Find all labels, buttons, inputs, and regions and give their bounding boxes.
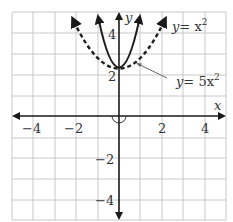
x-axis-label: x — [214, 98, 222, 113]
x-tick-label: −4 — [22, 121, 41, 136]
y-tick-label: −2 — [95, 152, 114, 167]
y-tick-label: 4 — [108, 27, 116, 42]
label-pointer — [138, 64, 167, 78]
graph: −4 −2 2 4 4 2 −2 −4 x y y= x2 y= 5x2 — [0, 0, 233, 222]
y-tick-label: −4 — [95, 193, 114, 208]
x-tick-label: 4 — [201, 121, 209, 136]
y-tick-label: 2 — [108, 69, 116, 84]
x-tick-label: −2 — [64, 121, 83, 136]
y-axis-label: y — [124, 10, 133, 25]
label-y-equals-x-squared: y= x2 — [171, 17, 207, 34]
pointer-arrowhead-icon — [136, 63, 142, 67]
label-y-equals-5x-squared: y= 5x2 — [175, 72, 220, 89]
x-tick-label: 2 — [158, 121, 166, 136]
